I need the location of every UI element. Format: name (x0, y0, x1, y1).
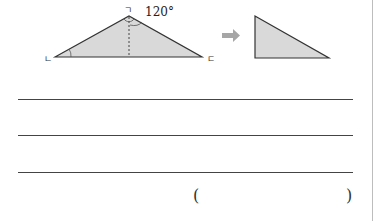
vertex-label-top: ㄱ (124, 5, 132, 15)
arrow-right-icon (222, 29, 240, 42)
right-triangle (255, 16, 329, 58)
answer-line-1 (18, 99, 353, 100)
answer-paren-open: ( (193, 186, 199, 205)
vertex-label-left: ㄴ (44, 54, 52, 64)
angle-label: 120° (145, 5, 174, 19)
answer-line-2 (18, 135, 353, 136)
vertex-label-right: ㄷ (207, 54, 215, 64)
triangle-figure: ㄱ 120° ㄴ ㄷ (0, 0, 379, 80)
right-border (372, 0, 373, 221)
answer-line-3 (18, 172, 353, 173)
answer-paren-close: ) (346, 186, 352, 205)
